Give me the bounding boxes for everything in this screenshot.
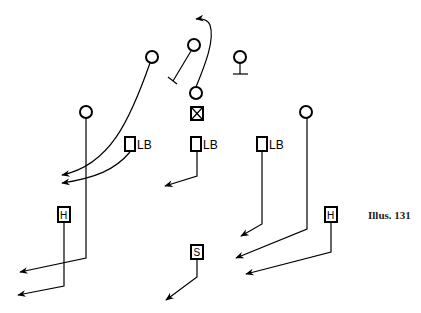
route-left-end: [62, 63, 150, 175]
route-h-right: [246, 222, 331, 274]
linebackers: LB LB LB: [125, 137, 284, 152]
route-qb: [196, 19, 211, 87]
player-circle-right-wing: [300, 106, 312, 118]
route-left-wing: [20, 118, 86, 272]
h-left-label: H: [60, 210, 67, 221]
play-diagram: LB LB LB H H S Illus. 131: [0, 0, 421, 313]
player-circle-left-wing: [80, 106, 92, 118]
route-lb-left: [62, 152, 130, 183]
route-safety: [166, 259, 197, 300]
route-lb-middle: [165, 152, 197, 186]
center-marker: [191, 107, 203, 120]
h-right: H: [325, 207, 337, 222]
block-tee-guard: [168, 77, 177, 84]
lb-left: LB: [125, 137, 152, 152]
block-line-guard: [173, 51, 191, 81]
h-right-label: H: [327, 210, 334, 221]
h-left: H: [58, 207, 70, 222]
lb-middle: LB: [191, 137, 218, 152]
lb-right: LB: [257, 137, 284, 152]
safety: S: [191, 245, 203, 259]
halfbacks: H H: [58, 207, 337, 222]
route-lb-right: [241, 152, 262, 236]
player-circle-left-end: [146, 51, 158, 63]
player-circle-guard: [188, 39, 200, 51]
illustration-caption: Illus. 131: [368, 209, 411, 221]
lb-right-label: LB: [269, 138, 284, 152]
lb-middle-label: LB: [203, 138, 218, 152]
safety-label: S: [194, 247, 201, 258]
lb-left-label: LB: [137, 138, 152, 152]
player-circle-qb: [190, 87, 202, 99]
route-h-left: [18, 222, 64, 295]
player-circle-right-tackle: [234, 51, 246, 63]
routes: [18, 19, 331, 300]
